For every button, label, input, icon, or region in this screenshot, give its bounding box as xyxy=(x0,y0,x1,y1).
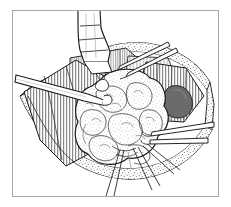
illustration-canvas xyxy=(0,0,231,207)
surgical-illustration-figure: Surgical line illustration of open neck … xyxy=(0,0,231,207)
